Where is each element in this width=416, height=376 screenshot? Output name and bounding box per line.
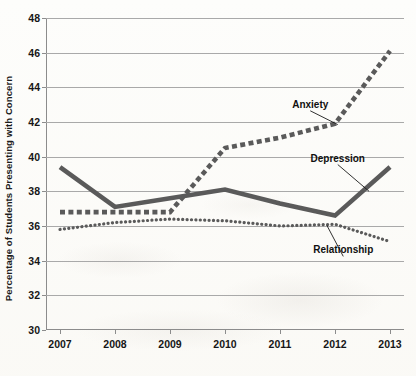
series-label-anxiety: Anxiety (292, 98, 328, 109)
chart-container: Percentage of Students Presenting with C… (0, 0, 416, 376)
x-tick-mark (335, 330, 336, 334)
y-tick-mark (42, 330, 46, 331)
x-tick-label: 2010 (213, 338, 236, 350)
x-tick-mark (170, 330, 171, 334)
x-tick-mark (225, 330, 226, 334)
annotation-leader-line (338, 165, 369, 192)
x-tick-label: 2007 (48, 338, 71, 350)
y-axis-title: Percentage of Students Presenting with C… (0, 0, 19, 376)
series-line-relationship (60, 219, 390, 242)
y-axis-title-text: Percentage of Students Presenting with C… (4, 75, 15, 300)
x-tick-label: 2009 (158, 338, 181, 350)
y-tick-label: 30 (28, 324, 40, 336)
x-tick-label: 2008 (103, 338, 126, 350)
series-label-relationship: Relationship (313, 244, 373, 255)
x-tick-label: 2013 (378, 338, 401, 350)
x-tick-mark (390, 330, 391, 334)
y-tick-label: 44 (28, 81, 40, 93)
y-tick-label: 34 (28, 255, 40, 267)
y-tick-label: 42 (28, 116, 40, 128)
y-tick-label: 48 (28, 12, 40, 24)
y-tick-label: 46 (28, 47, 40, 59)
x-tick-label: 2011 (269, 338, 292, 350)
y-tick-label: 40 (28, 151, 40, 163)
series-lines (46, 18, 404, 330)
x-tick-label: 2012 (323, 338, 346, 350)
y-tick-label: 32 (28, 289, 40, 301)
annotation-leader-line (310, 111, 338, 125)
x-tick-mark (115, 330, 116, 334)
series-line-depression (60, 167, 390, 216)
series-label-depression: Depression (311, 152, 365, 163)
y-tick-label: 38 (28, 185, 40, 197)
plot-area: 30323436384042444648 2007200820092010201… (46, 18, 404, 330)
x-tick-mark (280, 330, 281, 334)
x-tick-mark (60, 330, 61, 334)
y-tick-label: 36 (28, 220, 40, 232)
